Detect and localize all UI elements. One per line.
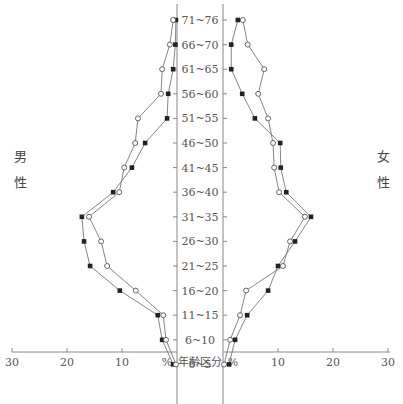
age-category-label: 71~76: [181, 14, 218, 27]
right-open-circle-marker: [238, 313, 243, 318]
right-open-circle-marker: [272, 165, 277, 170]
age-category-label: 46~50: [181, 137, 218, 150]
left-filled-square-marker: [143, 141, 148, 146]
right-filled-square-marker: [284, 190, 289, 195]
left-open-circle-marker: [171, 18, 176, 23]
right-filled-square-marker: [253, 116, 258, 121]
right-filled-square-marker: [229, 67, 234, 72]
left-filled-square-marker: [80, 215, 85, 220]
center-axis-label: 年齢区分: [178, 355, 222, 369]
female-label-char-2: 性: [376, 170, 390, 196]
age-category-label: 61~65: [181, 63, 218, 76]
population-pyramid-chart: 71~7666~7061~6556~6051~5546~5041~4536~40…: [0, 0, 403, 404]
right-filled-square-marker: [227, 362, 232, 367]
right-open-circle-marker: [240, 18, 245, 23]
left-open-circle-marker: [159, 91, 164, 96]
age-category-label: 16~20: [181, 285, 218, 298]
female-label: 女 性: [376, 144, 390, 196]
age-category-label: 51~55: [181, 112, 218, 125]
right-open-circle-marker: [222, 362, 227, 367]
right-open-circle-marker: [262, 67, 267, 72]
right-open-circle-marker: [302, 214, 307, 219]
right-filled-square-marker: [240, 92, 245, 97]
left-filled-square-marker: [165, 116, 170, 121]
right-filled-square-marker: [278, 165, 283, 170]
right-open-circle-marker: [271, 141, 276, 146]
right-filled-square-marker: [266, 288, 271, 293]
left-open-circle-marker: [173, 362, 178, 367]
age-category-label: 6~10: [185, 334, 215, 347]
left-open-circle-marker: [160, 67, 165, 72]
age-category-label: 11~15: [181, 309, 218, 322]
left-filled-square-marker: [166, 92, 171, 97]
left-filled-square-marker: [130, 165, 135, 170]
left-open-circle-marker: [164, 337, 169, 342]
right-filled-square-marker: [233, 338, 238, 343]
right-axis-tick-label: 30: [381, 356, 395, 369]
left-filled-square-marker: [173, 42, 178, 47]
left-filled-square-marker: [118, 288, 123, 293]
left-open-circle-marker: [122, 165, 127, 170]
male-label: 男 性: [13, 144, 27, 196]
age-category-label: 36~40: [181, 186, 218, 199]
left-open-circle-marker: [105, 264, 110, 269]
right-axis-tick-label: 10: [271, 356, 285, 369]
right-open-circle-marker: [266, 116, 271, 121]
male-label-char-1: 男: [13, 144, 27, 170]
left-filled-square-marker: [111, 190, 116, 195]
left-open-circle-marker: [99, 239, 104, 244]
left-axis-tick-label: 30: [5, 356, 19, 369]
right-filled-square-marker: [245, 313, 250, 318]
right-open-circle-marker: [288, 239, 293, 244]
age-category-label: 41~45: [181, 162, 218, 175]
left-open-circle-marker: [135, 116, 140, 121]
right-open-circle-marker: [228, 337, 233, 342]
right-filled-square-marker: [229, 42, 234, 47]
right-axis-tick-label: 20: [326, 356, 340, 369]
left-open-circle-marker: [133, 288, 138, 293]
right-filled-square-marker: [293, 239, 298, 244]
right-open-circle-marker: [280, 264, 285, 269]
left-axis-tick-label: 10: [115, 356, 129, 369]
left-open-circle-marker: [87, 214, 92, 219]
age-category-label: 26~30: [181, 235, 218, 248]
right-filled-square-marker: [309, 215, 314, 220]
left-filled-square-marker: [88, 264, 93, 269]
right-filled-square-marker: [278, 141, 283, 146]
left-filled-square-marker: [171, 67, 176, 72]
age-category-label: 56~60: [181, 88, 218, 101]
right-open-circle-marker: [244, 288, 249, 293]
right-open-circle-marker: [277, 190, 282, 195]
male-label-char-2: 性: [13, 170, 27, 196]
left-filled-square-marker: [155, 313, 160, 318]
age-category-label: 21~25: [181, 260, 218, 273]
left-open-circle-marker: [167, 42, 172, 47]
right-filled-square-marker: [276, 264, 281, 269]
left-open-circle-marker: [161, 313, 166, 318]
left-open-circle-marker: [133, 141, 138, 146]
left-filled-square-marker: [82, 239, 87, 244]
age-category-label: 66~70: [181, 39, 218, 52]
right-open-circle-marker: [256, 91, 261, 96]
female-label-char-1: 女: [376, 144, 390, 170]
age-category-label: 31~35: [181, 211, 218, 224]
right-filled-square-marker: [236, 18, 241, 23]
left-open-circle-marker: [117, 190, 122, 195]
right-open-circle-marker: [245, 42, 250, 47]
left-axis-tick-label: 20: [60, 356, 74, 369]
